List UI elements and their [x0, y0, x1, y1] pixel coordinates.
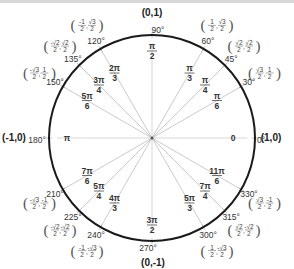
coord-comma: , — [264, 70, 266, 77]
paren-left: ( — [44, 222, 49, 239]
coord-numerator: √3 — [256, 66, 264, 73]
coord-numerator: √2 — [235, 39, 243, 46]
coord-denominator: 2 — [247, 46, 251, 53]
degree-label-315: 315° — [222, 212, 240, 222]
radian-denominator: 4 — [203, 191, 208, 201]
paren-right: ) — [229, 243, 234, 260]
radian-numerator: 7π — [199, 181, 211, 191]
radian-denominator: 6 — [85, 176, 90, 186]
radian-numerator: 11π — [209, 166, 225, 176]
radian-numerator: 5π — [93, 181, 105, 191]
paren-right: ) — [276, 65, 281, 82]
degree-label-60: 60° — [202, 36, 215, 46]
radian-denominator: 4 — [97, 85, 102, 95]
coord-denominator: 2 — [53, 230, 57, 237]
axis-point-top: (0,1) — [142, 7, 163, 18]
coordinate-label-300: ()12,-√32 — [201, 243, 234, 260]
coord-numerator: √3 — [218, 18, 226, 25]
radian-numerator: 4π — [109, 193, 121, 203]
degree-label-180: 180° — [28, 135, 46, 145]
axis-point-right: (1,0) — [261, 132, 282, 143]
paren-left: ( — [248, 195, 253, 212]
coordinate-label-30: ()√32,12 — [248, 65, 281, 82]
coord-denominator: 2 — [43, 73, 47, 80]
coord-numerator: √3 — [88, 18, 96, 25]
coord-numerator: -√3 — [217, 244, 227, 251]
spoke-300 — [152, 138, 204, 227]
coordinate-label-225: ()-√22,-√22 — [44, 222, 77, 239]
coord-numerator: -1 — [79, 18, 85, 25]
coord-comma: , — [39, 70, 41, 77]
coord-numerator: -√2 — [60, 223, 70, 230]
radian-numerator: 5π — [81, 91, 93, 101]
radian-value: π — [64, 133, 71, 143]
coord-comma: , — [264, 200, 266, 207]
paren-right: ) — [99, 243, 104, 260]
radian-label-60: π3 — [185, 63, 195, 83]
coord-denominator: 2 — [210, 25, 214, 32]
coord-numerator: -1 — [267, 196, 273, 203]
paren-left: ( — [248, 65, 253, 82]
coord-numerator: -√3 — [87, 244, 97, 251]
radian-numerator: π — [149, 41, 156, 51]
paren-right: ) — [255, 222, 260, 239]
spoke-210 — [63, 138, 152, 190]
coord-denominator: 2 — [80, 25, 84, 32]
coordinate-label-150: ()-√32,12 — [23, 65, 56, 82]
paren-left: ( — [227, 38, 232, 55]
paren-right: ) — [99, 17, 104, 34]
degree-label-45: 45° — [225, 54, 238, 64]
coord-numerator: -1 — [42, 196, 48, 203]
degree-label-120: 120° — [87, 36, 105, 46]
origin-point — [151, 137, 154, 140]
coord-numerator: -1 — [79, 244, 85, 251]
coord-numerator: 1 — [210, 18, 214, 25]
radian-denominator: 3 — [112, 203, 117, 213]
coord-denominator: 2 — [33, 203, 37, 210]
radian-numerator: 5π — [184, 193, 196, 203]
coordinate-label-135: ()-√22,√22 — [44, 38, 77, 55]
paren-right: ) — [51, 195, 56, 212]
paren-left: ( — [23, 195, 28, 212]
paren-left: ( — [71, 243, 76, 260]
coord-denominator: 2 — [53, 46, 57, 53]
radian-label-45: π4 — [200, 75, 210, 95]
paren-left: ( — [44, 38, 49, 55]
unit-circle-diagram: 0°030°π6()√32,1245°π4()√22,√2260°π3()12,… — [0, 0, 294, 269]
radian-numerator: 3π — [146, 215, 158, 225]
coord-denominator: 2 — [90, 251, 94, 258]
coord-denominator: 2 — [237, 46, 241, 53]
coord-numerator: -√2 — [244, 223, 254, 230]
paren-left: ( — [201, 17, 206, 34]
spoke-30 — [152, 87, 241, 139]
radian-label-135: 3π4 — [93, 75, 105, 95]
degree-label-135: 135° — [64, 54, 82, 64]
coord-denominator: 2 — [220, 25, 224, 32]
degree-label-300: 300° — [199, 230, 217, 240]
paren-left: ( — [227, 222, 232, 239]
spoke-330 — [152, 138, 241, 190]
radian-numerator: π — [202, 75, 209, 85]
radian-denominator: 6 — [215, 176, 220, 186]
radian-label-30: π6 — [212, 91, 222, 111]
paren-right: ) — [255, 38, 260, 55]
paren-right: ) — [276, 195, 281, 212]
radian-label-90: π2 — [147, 41, 157, 61]
coordinate-label-120: ()-12,√32 — [71, 17, 104, 34]
spoke-60 — [152, 49, 204, 138]
paren-left: ( — [23, 65, 28, 82]
coord-numerator: √2 — [245, 39, 253, 46]
spoke-150 — [63, 87, 152, 139]
paren-right: ) — [72, 222, 77, 239]
radian-denominator: 3 — [112, 73, 117, 83]
radian-denominator: 2 — [150, 51, 155, 61]
paren-left: ( — [201, 243, 206, 260]
radian-denominator: 2 — [150, 225, 155, 235]
radian-label-225: 5π4 — [93, 181, 105, 201]
coord-denominator: 2 — [268, 203, 272, 210]
coord-denominator: 2 — [63, 230, 67, 237]
coord-denominator: 2 — [210, 251, 214, 258]
radian-denominator: 3 — [187, 73, 192, 83]
coord-denominator: 2 — [43, 203, 47, 210]
coord-numerator: √2 — [235, 223, 243, 230]
